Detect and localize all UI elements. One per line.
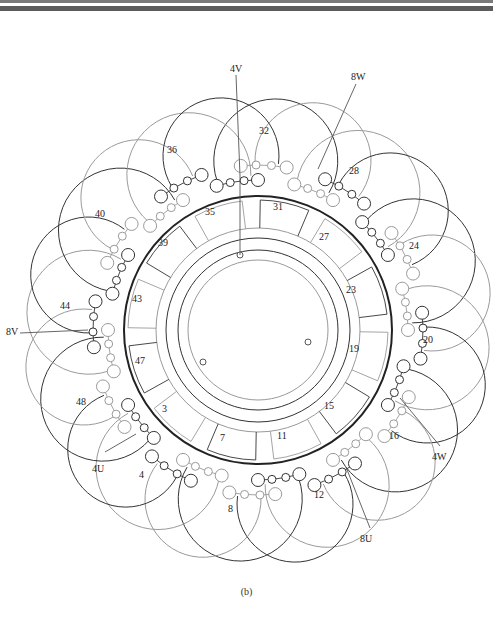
coil-node bbox=[269, 488, 282, 501]
coil-node bbox=[96, 380, 109, 393]
coil-label: 16 bbox=[389, 430, 399, 441]
coil-node bbox=[414, 352, 427, 365]
coil-node bbox=[183, 177, 191, 185]
coil-node bbox=[90, 313, 98, 321]
coil-node bbox=[144, 219, 157, 232]
terminal-label-8w: 8W bbox=[351, 71, 366, 82]
coil-node bbox=[381, 249, 394, 262]
coil-node bbox=[167, 204, 175, 212]
slot-label: 23 bbox=[346, 284, 356, 295]
coil-label: 8 bbox=[228, 503, 233, 514]
coil-node bbox=[101, 256, 114, 269]
coil-node bbox=[288, 178, 301, 191]
coil-label: 12 bbox=[314, 489, 324, 500]
coil-node bbox=[125, 217, 138, 230]
coil-label: 20 bbox=[423, 334, 433, 345]
coil-node bbox=[416, 306, 429, 319]
coil-end-arc bbox=[401, 235, 490, 351]
coil-node bbox=[419, 324, 427, 332]
slot-label: 39 bbox=[158, 237, 168, 248]
coil-node bbox=[407, 267, 420, 280]
coil-node bbox=[110, 245, 118, 253]
coil-node bbox=[122, 249, 135, 262]
coil-label: 24 bbox=[409, 240, 419, 251]
coil-node bbox=[293, 468, 306, 481]
terminal-node bbox=[200, 359, 206, 365]
coil-node bbox=[106, 287, 119, 300]
coil-node bbox=[358, 197, 371, 210]
coil-node bbox=[210, 179, 223, 192]
coil-node bbox=[397, 360, 410, 373]
coil-node bbox=[89, 295, 102, 308]
coil-label: 4 bbox=[139, 469, 144, 480]
coil-node bbox=[107, 354, 115, 362]
coil-node bbox=[240, 177, 248, 185]
coil-node bbox=[341, 448, 349, 456]
terminal-node bbox=[305, 339, 311, 345]
coil-label: 36 bbox=[167, 144, 177, 155]
coil-node bbox=[226, 179, 234, 187]
coil-node bbox=[132, 413, 140, 421]
coil-label: 48 bbox=[76, 396, 86, 407]
coil-end-arc bbox=[237, 473, 353, 562]
coil-node bbox=[396, 282, 409, 295]
lead-wire-8u bbox=[346, 467, 370, 528]
coil-node bbox=[112, 410, 120, 418]
coil-node bbox=[403, 312, 411, 320]
terminal-label-8v: 8V bbox=[6, 326, 19, 337]
coil-node bbox=[173, 470, 181, 478]
slot-label: 43 bbox=[132, 293, 142, 304]
coil-end-arc bbox=[26, 309, 115, 425]
coil-node bbox=[381, 399, 394, 412]
terminal-label-8u: 8U bbox=[360, 533, 373, 544]
coil-node bbox=[252, 161, 260, 169]
coil-label: 32 bbox=[259, 125, 269, 136]
coil-node bbox=[156, 212, 164, 220]
coil-node bbox=[317, 190, 325, 198]
figure-caption: (b) bbox=[0, 586, 493, 597]
lead-wire-4u bbox=[105, 434, 136, 452]
coil-node bbox=[256, 491, 264, 499]
slot-label: 31 bbox=[273, 201, 283, 212]
terminal-label-4u: 4U bbox=[92, 463, 105, 474]
coil-node bbox=[398, 407, 406, 415]
slot-label: 19 bbox=[349, 343, 359, 354]
coil-node bbox=[385, 227, 398, 240]
coil-node bbox=[356, 216, 369, 229]
coil-node bbox=[140, 424, 148, 432]
coil-node bbox=[319, 173, 332, 186]
slot-label: 27 bbox=[319, 231, 329, 242]
slot-label: 15 bbox=[324, 400, 334, 411]
coil-node bbox=[122, 399, 135, 412]
coil-node bbox=[112, 276, 120, 284]
coil-node bbox=[195, 168, 208, 181]
slot-label: 7 bbox=[220, 432, 225, 443]
coil-node bbox=[102, 324, 115, 337]
coil-node bbox=[118, 263, 126, 271]
coil-node bbox=[325, 475, 333, 483]
coil-node bbox=[177, 194, 190, 207]
slot-label: 3 bbox=[162, 403, 167, 414]
coil-node bbox=[204, 468, 212, 476]
terminal-label-4v: 4V bbox=[230, 63, 243, 74]
coil-label: 28 bbox=[349, 165, 359, 176]
coil-node bbox=[107, 365, 120, 378]
coil-node bbox=[118, 232, 126, 240]
coil-end-arc bbox=[163, 98, 279, 187]
coil-node bbox=[338, 468, 346, 476]
coil-node bbox=[359, 428, 372, 441]
coil-node bbox=[241, 490, 249, 498]
coil-node bbox=[376, 239, 384, 247]
terminal-label-4w: 4W bbox=[432, 451, 447, 462]
slot-label: 35 bbox=[205, 206, 215, 217]
coil-node bbox=[352, 440, 360, 448]
coil-node bbox=[155, 190, 168, 203]
coil-label: 44 bbox=[60, 300, 70, 311]
coil-node bbox=[191, 462, 199, 470]
coil-node bbox=[89, 328, 97, 336]
winding-diagram: 4V8W4W8U4U8V3127231915117347433935322824… bbox=[0, 0, 493, 625]
coil-node bbox=[327, 194, 340, 207]
coil-node bbox=[268, 475, 276, 483]
coil-node bbox=[280, 161, 293, 174]
coil-node bbox=[160, 462, 168, 470]
